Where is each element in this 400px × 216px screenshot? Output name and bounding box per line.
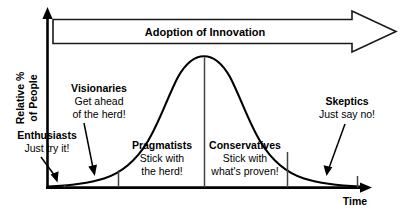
conservatives-caption-line2: what's proven! bbox=[210, 165, 278, 177]
segment-label-conservatives: Conservatives Stick with what's proven! bbox=[209, 139, 281, 177]
visionaries-caption-line2: of the herd! bbox=[72, 108, 125, 120]
pragmatists-caption-line2: the herd! bbox=[141, 165, 182, 177]
visionaries-pointer-line bbox=[84, 123, 93, 168]
segment-label-skeptics: Skeptics Just say no! bbox=[319, 95, 375, 176]
y-axis-arrowhead-icon bbox=[42, 7, 52, 19]
skeptics-caption-line1: Just say no! bbox=[319, 108, 375, 120]
segment-label-pragmatists: Pragmatists Stick with the herd! bbox=[132, 139, 192, 177]
visionaries-caption-line1: Get ahead bbox=[74, 95, 123, 107]
x-axis-arrowhead-icon bbox=[360, 183, 372, 193]
conservatives-title: Conservatives bbox=[209, 139, 281, 151]
skeptics-pointer-line bbox=[329, 124, 345, 168]
skeptics-title: Skeptics bbox=[325, 95, 368, 107]
adoption-curve-diagram: Relative % of People Time Adoption of In… bbox=[0, 0, 400, 216]
y-axis-label-line1: Relative % bbox=[14, 71, 26, 124]
pragmatists-caption-line1: Stick with bbox=[140, 152, 185, 164]
enthusiasts-title: Enthusiasts bbox=[17, 129, 77, 141]
x-axis-label: Time bbox=[343, 195, 367, 207]
y-axis-label-group: Relative % of People bbox=[14, 71, 39, 124]
banner-label: Adoption of Innovation bbox=[145, 26, 266, 38]
skeptics-pointer-arrowhead-icon bbox=[324, 165, 333, 176]
enthusiasts-caption-line1: Just try it! bbox=[25, 142, 70, 154]
conservatives-caption-line1: Stick with bbox=[223, 152, 268, 164]
x-axis: Time bbox=[46, 183, 372, 208]
pragmatists-title: Pragmatists bbox=[132, 139, 192, 151]
chart-canvas: Relative % of People Time Adoption of In… bbox=[0, 0, 400, 216]
segment-label-visionaries: Visionaries Get ahead of the herd! bbox=[71, 82, 127, 176]
visionaries-title: Visionaries bbox=[71, 82, 127, 94]
visionaries-pointer-arrowhead-icon bbox=[88, 165, 97, 176]
adoption-banner: Adoption of Innovation bbox=[53, 11, 396, 52]
y-axis-label-line2: of People bbox=[27, 74, 39, 121]
